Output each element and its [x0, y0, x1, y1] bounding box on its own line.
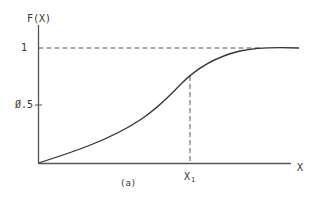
- cdf-curve: [39, 47, 300, 163]
- figure-caption: (a): [120, 179, 136, 188]
- x1-label: X1: [184, 172, 195, 182]
- x1-label-subscript: 1: [191, 176, 195, 184]
- x-axis-label: X: [297, 163, 303, 173]
- y-tick-label-1: 1: [21, 43, 27, 53]
- x1-label-main: X: [184, 171, 190, 182]
- y-tick-label-0.5: Ø.5: [15, 100, 33, 110]
- y-axis-label: F(X): [27, 14, 51, 24]
- cdf-chart: [0, 0, 319, 200]
